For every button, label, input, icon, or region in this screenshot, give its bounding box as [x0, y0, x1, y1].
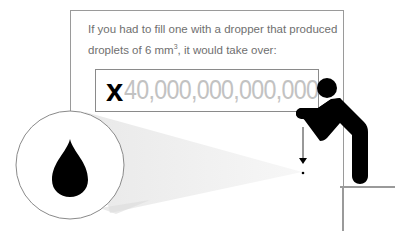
ledge	[340, 187, 395, 231]
foreground-art	[0, 0, 395, 231]
droplet-point	[302, 172, 305, 175]
person-leaning-icon	[296, 78, 368, 184]
